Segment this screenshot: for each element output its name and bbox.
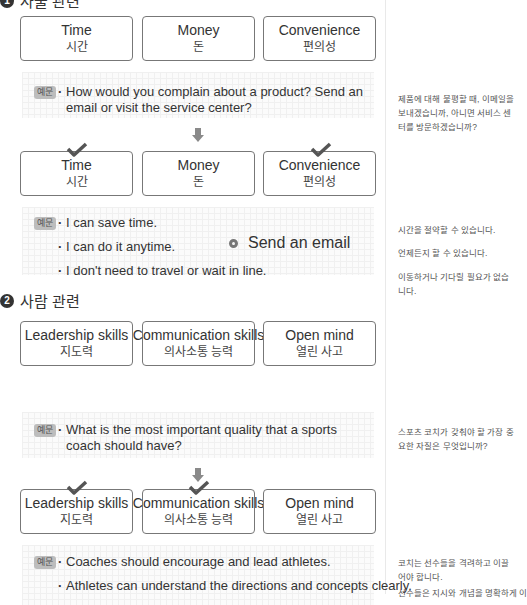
option-en: Time <box>61 21 92 39</box>
option-money: Money 돈 <box>142 151 255 196</box>
example-badge: 예문 <box>34 424 56 437</box>
example-badge: 예문 <box>34 556 56 569</box>
option-en: Leadership skills <box>25 326 129 344</box>
section-number-icon: 1 <box>0 0 14 8</box>
option-en: Time <box>61 156 92 174</box>
question-translation: 스포츠 코치가 갖춰야 할 가장 중요한 자질은 무엇입니까? <box>398 425 516 453</box>
option-en: Communication skills <box>133 494 264 512</box>
conclusion-text: Send an email <box>248 234 350 252</box>
option-ko: 의사소통 능력 <box>164 512 233 529</box>
example-answers-panel: 예문 I can save time. I can do it anytime.… <box>22 207 374 275</box>
circle-bullet-icon <box>229 239 238 248</box>
option-leadership: Leadership skills 지도력 <box>20 321 133 366</box>
option-en: Money <box>177 156 219 174</box>
section-number-icon: 2 <box>0 294 14 308</box>
checkmark-icon <box>310 142 332 158</box>
example-question: What is the most important quality that … <box>66 422 366 454</box>
option-ko: 편의성 <box>303 39 336 56</box>
checkmark-icon <box>188 480 210 496</box>
option-en: Open mind <box>285 326 353 344</box>
answer-item: I can save time. <box>66 215 157 231</box>
arrow-down-icon <box>192 128 204 142</box>
option-en: Convenience <box>279 21 361 39</box>
option-en: Open mind <box>285 494 353 512</box>
checkmark-icon <box>66 142 88 158</box>
option-ko: 시간 <box>66 174 88 191</box>
option-ko: 돈 <box>193 39 204 56</box>
answer-translation: 이동하거나 기다릴 필요가 없습니다. <box>398 270 516 298</box>
answer-translation: 언제든지 할 수 있습니다. <box>398 246 516 260</box>
answer-translation: 시간을 절약할 수 있습니다. <box>398 223 516 237</box>
option-ko: 시간 <box>66 39 88 56</box>
answer-translation: 코치는 선수들을 격려하고 이끌어야 합니다. <box>398 556 516 584</box>
question-translation: 제품에 대해 불평할 때, 이메일을 보내겠습니까, 아니면 서비스 센터를 방… <box>398 92 516 134</box>
conclusion: Send an email <box>229 234 350 252</box>
option-convenience: Convenience 편의성 <box>263 16 376 61</box>
option-en: Leadership skills <box>25 494 129 512</box>
section1-heading: 1 사물 관련 <box>0 0 80 11</box>
answer-translation: 선수들은 지시와 개념을 명확하게 이 <box>398 586 516 600</box>
option-ko: 의사소통 능력 <box>164 344 233 361</box>
option-communication: Communication skills 의사소통 능력 <box>142 321 255 366</box>
option-en: Communication skills <box>133 326 264 344</box>
option-ko: 열린 사고 <box>296 344 343 361</box>
option-time: Time 시간 <box>20 16 133 61</box>
example-question-panel: 예문 How would you complain about a produc… <box>22 72 374 118</box>
option-ko: 지도력 <box>60 344 93 361</box>
section2-heading: 2 사람 관련 <box>0 290 80 311</box>
option-ko: 편의성 <box>303 174 336 191</box>
option-open-mind: Open mind 열린 사고 <box>263 489 376 534</box>
column-divider <box>385 0 386 594</box>
option-ko: 지도력 <box>60 512 93 529</box>
answer-item: Coaches should encourage and lead athlet… <box>66 554 331 570</box>
example-badge: 예문 <box>34 86 56 99</box>
example-badge: 예문 <box>34 217 56 230</box>
option-money: Money 돈 <box>142 16 255 61</box>
answer-item: I don't need to travel or wait in line. <box>66 263 266 279</box>
example-question: How would you complain about a product? … <box>66 84 366 116</box>
option-en: Money <box>177 21 219 39</box>
section1-title: 사물 관련 <box>20 0 80 11</box>
option-ko: 돈 <box>193 174 204 191</box>
checkmark-icon <box>66 480 88 496</box>
option-open-mind: Open mind 열린 사고 <box>263 321 376 366</box>
answer-item: I can do it anytime. <box>66 239 175 255</box>
example-question-panel: 예문 What is the most important quality th… <box>22 412 374 458</box>
option-en: Convenience <box>279 156 361 174</box>
example-answers-panel: 예문 Coaches should encourage and lead ath… <box>22 545 374 605</box>
section2-title: 사람 관련 <box>20 290 80 311</box>
option-ko: 열린 사고 <box>296 512 343 529</box>
answer-item: Athletes can understand the directions a… <box>66 578 412 594</box>
